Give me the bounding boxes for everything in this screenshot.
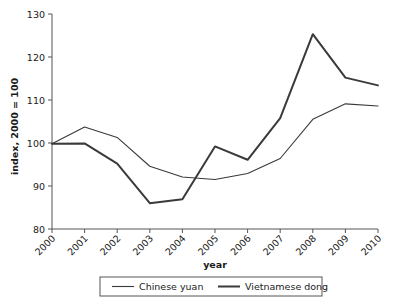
chart-container: index, 2000 = 100 8090100110120130 20002… [0, 0, 399, 303]
x-axis-title-label: year [203, 259, 227, 270]
x-tick-group: 2000200120022003200420052006200720082009… [33, 229, 384, 258]
line-chart: index, 2000 = 100 8090100110120130 20002… [0, 0, 399, 303]
y-tick-label: 110 [27, 95, 45, 106]
series-line-0 [52, 104, 378, 180]
x-tick-label: 2010 [359, 233, 384, 258]
y-tick-label: 90 [33, 181, 45, 192]
y-tick-group: 8090100110120130 [27, 9, 52, 235]
y-tick-label: 130 [27, 9, 45, 20]
x-tick-label: 2006 [228, 233, 253, 258]
y-tick-label: 100 [27, 138, 45, 149]
legend-entries: Chinese yuanVietnamese dong [112, 281, 328, 292]
series-group [52, 34, 378, 203]
x-tick-label: 2002 [98, 233, 123, 258]
x-tick-label: 2008 [293, 233, 318, 258]
x-tick-label: 2009 [326, 233, 351, 258]
y-axis-title: index, 2000 = 100 [9, 77, 20, 175]
x-tick-label: 2004 [163, 233, 188, 258]
x-tick-label: 2007 [261, 233, 286, 258]
y-tick-label: 80 [33, 224, 45, 235]
x-tick-label: 2003 [130, 233, 155, 258]
series-line-1 [52, 34, 378, 203]
x-tick-label: 2005 [196, 233, 221, 258]
y-axis-title-label: index, 2000 = 100 [9, 77, 20, 175]
y-tick-label: 120 [27, 52, 45, 63]
y-axis: 8090100110120130 [27, 9, 52, 235]
x-axis: 2000200120022003200420052006200720082009… [33, 229, 384, 258]
x-tick-label: 2000 [33, 233, 58, 258]
x-tick-label: 2001 [65, 233, 90, 258]
legend-label-1: Vietnamese dong [245, 281, 328, 292]
chart-legend: Chinese yuanVietnamese dong [100, 277, 328, 296]
legend-label-0: Chinese yuan [139, 281, 203, 292]
